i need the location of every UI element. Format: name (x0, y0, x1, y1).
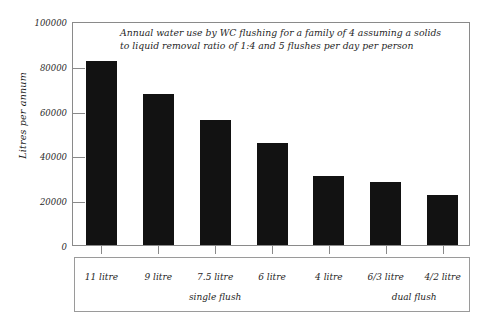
bar (313, 176, 344, 245)
x-tick-mark (158, 245, 159, 254)
bar (143, 94, 174, 245)
y-tick-label: 0 (62, 242, 67, 252)
y-tick-label: 20000 (40, 197, 67, 207)
y-axis-label: Litres per annum (17, 56, 28, 176)
y-tick-mark (73, 113, 85, 114)
bar (427, 195, 458, 245)
y-tick-label: 80000 (40, 63, 67, 73)
x-tick-mark (215, 245, 216, 254)
bar (257, 143, 288, 245)
chart-figure: Litres per annum 10000080000600004000020… (0, 0, 487, 328)
y-tick-mark (73, 202, 85, 203)
y-tick-mark (73, 157, 85, 158)
x-tick-mark (329, 245, 330, 254)
bar (370, 182, 401, 245)
y-tick-mark (73, 68, 85, 69)
chart-title-line2: to liquid removal ratio of 1:4 and 5 flu… (120, 39, 460, 52)
y-tick-label: 60000 (40, 108, 67, 118)
x-axis-label: 7.5 litre (197, 272, 233, 282)
chart-title: Annual water use by WC flushing for a fa… (120, 26, 460, 52)
chart-title-line1: Annual water use by WC flushing for a fa… (120, 27, 441, 38)
bar (86, 61, 117, 245)
x-axis-label: 6/3 litre (368, 272, 404, 282)
bar (200, 120, 231, 245)
x-tick-mark (443, 245, 444, 254)
group-label: single flush (189, 292, 241, 302)
x-axis-label: 4 litre (315, 272, 343, 282)
x-tick-mark (386, 245, 387, 254)
x-tick-mark (101, 245, 102, 254)
plot-area: 100000800006000040000200000 (72, 22, 470, 246)
x-axis-label: 6 litre (258, 272, 286, 282)
x-axis-label: 4/2 litre (424, 272, 460, 282)
category-label-box: 11 litre9 litre7.5 litre6 litre4 litre6/… (74, 257, 470, 312)
x-axis-label: 9 litre (144, 272, 172, 282)
y-tick-label: 40000 (40, 152, 67, 162)
y-tick-label: 100000 (35, 18, 67, 28)
x-axis-label: 11 litre (85, 272, 118, 282)
x-tick-mark (272, 245, 273, 254)
group-label: dual flush (392, 292, 437, 302)
